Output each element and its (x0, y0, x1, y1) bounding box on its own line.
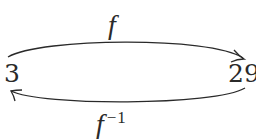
function-symbol: f (96, 108, 104, 139)
node-3: 3 (4, 61, 20, 86)
edge-label-f-inverse: f−1 (96, 110, 127, 138)
arrows-layer (0, 0, 256, 140)
arrow-f-inverse (11, 88, 245, 102)
arrow-f (8, 42, 243, 58)
edge-label-f: f (108, 11, 116, 39)
node-29: 29 (228, 61, 256, 86)
inverse-superscript: −1 (107, 108, 127, 127)
